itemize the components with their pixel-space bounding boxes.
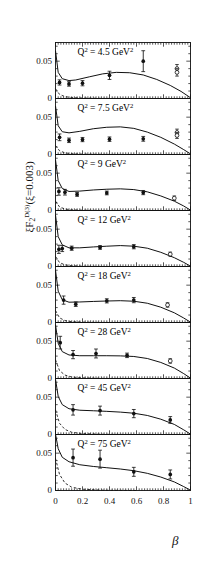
data-point-filled [98,457,102,461]
y-tick-label: 0.05 [12,57,52,66]
data-point-filled [141,59,145,63]
panel-2: Q2 = 7.5 GeV2 [56,99,191,155]
x-tick-label: 1 [179,497,203,506]
data-point-filled [71,408,75,412]
data-point-filled [63,190,67,194]
data-point-open [175,70,179,74]
data-point-filled [71,456,75,460]
data-point-filled [132,470,136,474]
panel-label-gev-exp: 2 [130,46,133,53]
data-point-filled [70,246,74,250]
y-tick-label: 0 [12,94,52,103]
data-point-filled [168,418,172,422]
data-point-filled [58,135,62,139]
data-point-filled [67,138,71,142]
figure-canvas: ξF2D(3)(ξ=0.003) β Q2 = 4.5 GeV2Q2 = 7.5… [0,0,204,561]
y-tick-label: 0.05 [12,113,52,122]
secondary-curve [56,458,137,490]
panel-label: Q2 = 18 GeV2 [78,270,131,281]
panel-label-value: = 12 GeV [88,215,128,225]
y-tick-label: 0.05 [12,393,52,402]
data-point-open [166,303,170,307]
data-point-open [175,134,179,138]
panel-label: Q2 = 12 GeV2 [78,214,131,225]
data-point-filled [60,247,64,251]
y-tick-label: 0.05 [12,225,52,234]
panel-5: Q2 = 18 GeV2 [56,267,191,323]
panel-label-value: = 4.5 GeV [88,47,130,57]
panel-label-value: = 9 GeV [88,159,123,169]
panel-7: Q2 = 45 GeV2 [56,379,191,435]
panel-label-gev-exp: 2 [128,438,131,445]
panel-label-value: = 7.5 GeV [88,103,130,113]
x-tick-label: 0.4 [98,497,122,506]
data-point-filled [105,299,109,303]
data-point-filled [108,137,112,141]
y-tick-label: 0.05 [12,337,52,346]
data-point-filled [132,412,136,416]
y-tick-label: 0 [12,318,52,327]
x-tick-label: 0 [44,497,68,506]
data-point-open [172,196,176,200]
panel-label-value: = 45 GeV [88,383,128,393]
panel-3: Q2 = 9 GeV2 [56,155,191,211]
panel-label: Q2 = 7.5 GeV2 [78,102,134,113]
fit-curve [56,51,191,98]
secondary-curve [56,410,137,435]
data-point-filled [98,409,102,413]
data-point-open [168,359,172,363]
data-point-filled [108,74,112,78]
panel-label: Q2 = 45 GeV2 [78,382,131,393]
panel-label-gev-exp: 2 [128,382,131,389]
panel-label-value: = 18 GeV [88,271,128,281]
data-point-filled [74,302,78,306]
fit-curve [56,160,191,210]
fit-curve [56,106,191,154]
panel-label-gev-exp: 2 [128,326,131,333]
data-point-filled [71,353,75,357]
data-point-filled [94,352,98,356]
panel-label-value: = 75 GeV [88,439,128,449]
y-tick-label: 0 [12,486,52,495]
y-tick-label: 0 [12,150,52,159]
panel-1: Q2 = 4.5 GeV2 [56,43,191,99]
x-tick-label: 0.8 [152,497,176,506]
data-point-filled [81,138,85,142]
secondary-curve [56,360,137,379]
data-point-filled [168,473,172,477]
x-tick-label: 0.2 [71,497,95,506]
data-point-filled [58,81,62,85]
data-point-filled [58,341,62,345]
x-axis-label: β [172,533,178,549]
data-point-open [168,252,172,256]
y-tick-label: 0 [12,430,52,439]
data-point-filled [132,245,136,249]
y-tick-label: 0 [12,206,52,215]
data-point-filled [141,137,145,141]
data-point-filled [81,81,85,85]
data-point-filled [57,190,61,194]
panel-label-value: = 28 GeV [88,327,128,337]
y-tick-label: 0 [12,262,52,271]
y-tick-label: 0.05 [12,449,52,458]
data-point-filled [132,298,136,302]
panel-label-gev-exp: 2 [128,214,131,221]
panel-8: Q2 = 75 GeV2 [56,434,191,490]
data-point-filled [67,82,71,86]
data-point-filled [57,247,61,251]
data-point-filled [75,193,79,197]
panel-label-gev-exp: 2 [130,102,133,109]
data-point-filled [105,191,109,195]
data-point-filled [141,191,145,195]
panel-label-gev-exp: 2 [123,158,126,165]
panel-label: Q2 = 9 GeV2 [78,158,127,169]
panel-label: Q2 = 28 GeV2 [78,326,131,337]
panel-label: Q2 = 75 GeV2 [78,438,131,449]
panel-label-gev-exp: 2 [128,270,131,277]
data-point-filled [125,354,129,358]
y-tick-label: 0 [12,374,52,383]
panel-6: Q2 = 28 GeV2 [56,323,191,379]
y-tick-label: 0.05 [12,169,52,178]
data-point-filled [62,298,66,302]
panel-label: Q2 = 4.5 GeV2 [78,46,134,57]
